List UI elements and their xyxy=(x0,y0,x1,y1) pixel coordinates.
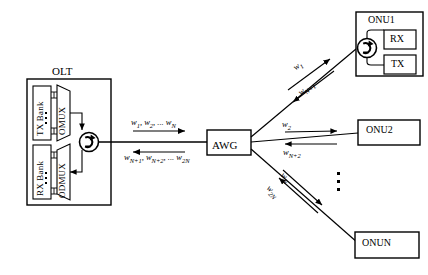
onun-title: ONUN xyxy=(362,238,391,248)
onu-list-ellipsis xyxy=(337,172,340,191)
branch2-downstream-arrow xyxy=(285,131,337,132)
branch2-downstream-label: w2 xyxy=(282,119,291,131)
tx-bank-ellipsis xyxy=(45,112,47,124)
diagram-vector-layer xyxy=(0,0,428,275)
onu1-circulator-icon xyxy=(358,39,377,58)
trunk-upstream-label: wN+1, wN+2, ... w2N xyxy=(124,152,190,164)
olt-circulator-icon xyxy=(80,133,99,152)
odmux-label: ODMUX xyxy=(57,148,67,198)
rx-bank-label: RX Bank xyxy=(35,150,45,196)
tx-bank-label: TX Bank xyxy=(35,90,45,136)
figure-canvas: OLT AWG TX Bank RX Bank OMUX ODMUX w1, w… xyxy=(0,0,428,275)
trunk-downstream-label: w1, w2, ... wN xyxy=(131,117,176,129)
branch-fiber-onu2 xyxy=(251,133,358,142)
branch-fiber-onun xyxy=(251,149,358,243)
omux-label: OMUX xyxy=(57,89,67,135)
onu1-rx-label: RX xyxy=(390,34,404,44)
onu1-title: ONU1 xyxy=(368,15,395,25)
onu1-tx-label: TX xyxy=(391,59,404,69)
onu2-title: ONU2 xyxy=(366,125,393,135)
awg-label: AWG xyxy=(212,140,237,151)
rx-bank-ellipsis xyxy=(45,172,47,184)
branch2-upstream-label: wN+2 xyxy=(283,147,301,159)
olt-title: OLT xyxy=(52,66,72,77)
